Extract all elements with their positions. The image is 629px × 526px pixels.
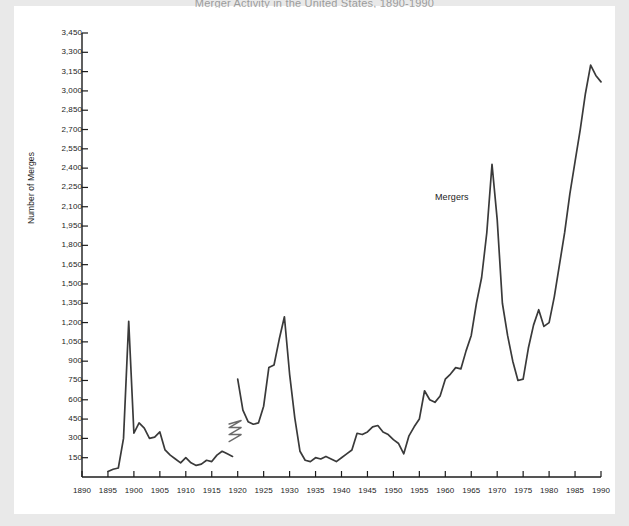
series-annotation-mergers: Mergers <box>435 192 469 202</box>
x-axis-tick-labels: 1890189519001905191019151920192519301935… <box>14 6 615 514</box>
chart-card: Merger Activity in the United States, 18… <box>14 6 615 514</box>
chart-plot-area: Number of Merges 1503004506007509001,050… <box>14 6 615 514</box>
page-background: Merger Activity in the United States, 18… <box>0 0 629 526</box>
x-tick-label: 1990 <box>581 486 621 495</box>
